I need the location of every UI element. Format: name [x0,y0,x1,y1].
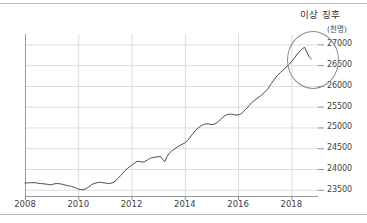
x-tick-label: 2012 [121,200,143,209]
y-tick-label: 23500 [327,186,352,194]
line-chart-svg [25,34,318,196]
x-tick-label: 2018 [281,200,303,209]
y-axis-unit-label: (천명) [327,26,347,34]
y-tick-label: 27000 [327,40,352,48]
y-tick-label: 24500 [327,144,352,152]
axis-ticks-group [26,45,325,200]
chart-figure: 2350024000245002500025500260002650027000… [0,0,367,223]
x-tick-label: 2016 [227,200,249,209]
x-tick-label: 2010 [67,200,89,209]
y-tick-label: 24000 [327,165,352,173]
plot-frame [25,34,318,197]
x-tick-label: 2008 [14,200,36,209]
plot-area [25,34,318,196]
y-tick-label: 25500 [327,103,352,111]
y-tick-label: 26500 [327,61,352,69]
gridlines-group [25,34,318,196]
bottom-divider-rule [0,214,367,215]
y-tick-label: 25000 [327,123,352,131]
series-line-employment [25,47,311,189]
top-divider-rule [0,3,367,4]
x-tick-label: 2014 [174,200,196,209]
y-tick-label: 26000 [327,82,352,90]
annotation-label-abnormal-sign: 이상 징후 [300,9,340,20]
